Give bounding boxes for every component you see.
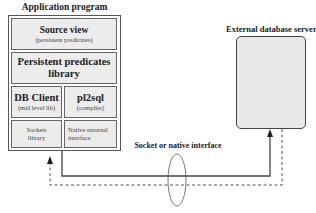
- solid-connection-line: [62, 135, 270, 176]
- interface-ellipse: [168, 154, 186, 206]
- dashed-arrowhead-icon: [47, 156, 53, 164]
- solid-arrowhead-icon: [267, 129, 273, 137]
- connection-lines: [0, 0, 316, 213]
